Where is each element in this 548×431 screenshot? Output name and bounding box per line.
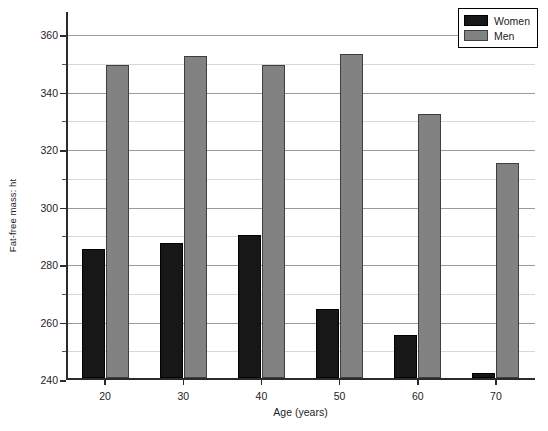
x-axis-label: 30 <box>177 390 189 402</box>
legend-swatch-men <box>464 30 488 41</box>
gridline <box>66 265 535 266</box>
y-tick-minor <box>62 64 66 65</box>
y-axis-label: 280 <box>40 259 58 271</box>
x-tick <box>495 380 497 385</box>
legend-item-men: Men <box>464 28 530 43</box>
bar-men-40 <box>262 65 285 378</box>
bar-women-60 <box>394 335 417 378</box>
gridline-minor <box>66 64 535 65</box>
legend-item-women: Women <box>464 13 530 28</box>
gridline <box>66 208 535 209</box>
y-tick-minor <box>62 294 66 295</box>
y-axis-title-label: Fat-free mass: ht <box>8 179 19 253</box>
y-tick-minor <box>62 351 66 352</box>
bar-women-40 <box>238 235 261 379</box>
y-tick <box>60 93 66 95</box>
x-axis-label: 40 <box>256 390 268 402</box>
bar-men-50 <box>340 54 363 379</box>
bar-men-60 <box>418 114 441 379</box>
y-tick <box>60 208 66 210</box>
y-axis-title: Fat-free mass: ht <box>0 0 26 431</box>
gridline <box>66 323 535 324</box>
x-axis-title: Age (years) <box>66 406 535 418</box>
chart-legend: WomenMen <box>458 8 538 48</box>
bar-women-20 <box>82 249 105 378</box>
y-axis-label: 360 <box>40 29 58 41</box>
gridline-minor <box>66 351 535 352</box>
y-axis-label: 300 <box>40 202 58 214</box>
y-axis-line <box>66 12 68 380</box>
legend-swatch-women <box>464 15 488 26</box>
x-tick <box>417 380 419 385</box>
legend-label-women: Women <box>494 15 530 27</box>
x-axis-label: 60 <box>412 390 424 402</box>
plot-area: 240260280300320340360 203040506070 <box>66 12 535 380</box>
y-axis-label: 240 <box>40 374 58 386</box>
x-tick <box>104 380 106 385</box>
y-axis-label: 260 <box>40 317 58 329</box>
bar-chart: Fat-free mass: ht 240260280300320340360 … <box>0 0 548 431</box>
bar-women-70 <box>472 373 495 379</box>
y-tick <box>60 380 66 382</box>
x-tick <box>339 380 341 385</box>
y-tick-minor <box>62 121 66 122</box>
y-tick-minor <box>62 236 66 237</box>
x-axis-line <box>66 378 535 380</box>
y-tick <box>60 265 66 267</box>
legend-label-men: Men <box>494 30 514 42</box>
y-axis-label: 340 <box>40 87 58 99</box>
x-axis-label: 50 <box>334 390 346 402</box>
y-tick <box>60 323 66 325</box>
bar-men-30 <box>184 56 207 378</box>
x-axis-label: 70 <box>490 390 502 402</box>
y-tick <box>60 35 66 37</box>
x-tick <box>261 380 263 385</box>
gridline-minor <box>66 179 535 180</box>
gridline-minor <box>66 294 535 295</box>
bar-women-50 <box>316 309 339 378</box>
gridline <box>66 150 535 151</box>
gridline <box>66 93 535 94</box>
y-tick <box>60 150 66 152</box>
bar-women-30 <box>160 243 183 378</box>
x-tick <box>183 380 185 385</box>
y-axis-label: 320 <box>40 144 58 156</box>
bar-men-70 <box>496 163 519 379</box>
bar-men-20 <box>106 65 129 378</box>
gridline-minor <box>66 121 535 122</box>
x-axis-label: 20 <box>99 390 111 402</box>
y-tick-minor <box>62 179 66 180</box>
gridline-minor <box>66 236 535 237</box>
